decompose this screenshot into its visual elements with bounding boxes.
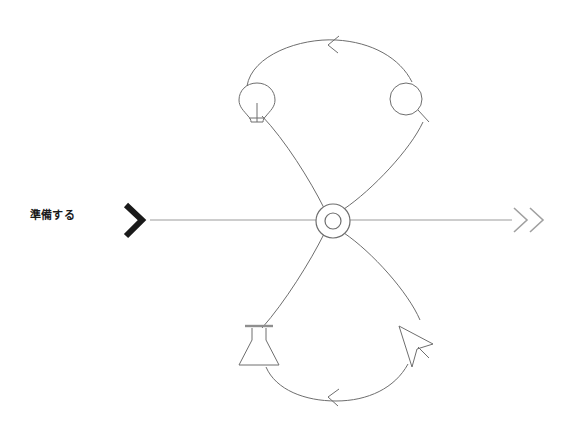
link-act-to-hub — [344, 233, 420, 320]
link-hub-to-experiment — [262, 234, 324, 328]
hub-inner-ring — [325, 213, 341, 229]
upper-loop-arrowhead — [328, 36, 339, 53]
link-research-to-hub — [344, 122, 423, 209]
arc-experiment-to-act — [266, 364, 408, 401]
flask-icon — [239, 326, 279, 365]
start-chevron-icon — [126, 205, 142, 236]
stage-label: 準備する — [30, 209, 75, 223]
magnifier-handle — [418, 110, 429, 122]
cursor-arrow-body — [399, 326, 433, 367]
magnifier-icon — [390, 83, 429, 122]
link-hub-to-idea — [262, 116, 324, 208]
flask-body — [239, 328, 279, 365]
end-chevron-icon-1 — [514, 208, 527, 232]
cursor-arrow-tail — [418, 347, 429, 358]
cursor-pointer-icon — [399, 326, 433, 367]
lightbulb-icon — [239, 83, 275, 122]
magnifier-lens — [390, 83, 422, 115]
end-chevron-icon-2 — [530, 208, 543, 232]
cycle-loop-diagram — [0, 0, 579, 427]
lower-loop-arrowhead — [328, 389, 339, 406]
diagram-canvas: 準備する — [0, 0, 579, 427]
